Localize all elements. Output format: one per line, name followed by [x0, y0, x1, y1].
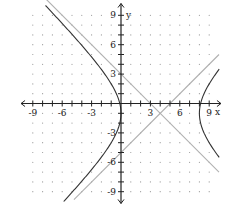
x-axis-label: x	[215, 107, 220, 117]
x-tick-label: -3	[87, 108, 96, 118]
y-tick-label: -6	[107, 157, 116, 167]
axes	[21, 4, 221, 204]
y-tick-label: -3	[107, 128, 116, 138]
x-tick-label: 9	[206, 108, 212, 118]
y-tick-label: -9	[107, 187, 116, 197]
y-tick-label: 3	[110, 69, 116, 79]
y-tick-label: 9	[110, 10, 116, 20]
x-tick-label: -9	[28, 108, 37, 118]
x-tick-label: 3	[148, 108, 154, 118]
hyperbola-graph: -9-6-3369963-3-6-9xy	[0, 0, 231, 213]
x-tick-label: -6	[58, 108, 67, 118]
x-tick-label: 6	[177, 108, 183, 118]
y-tick-label: 6	[110, 40, 116, 50]
asymptote-lines	[21, 0, 219, 200]
y-axis-label: y	[125, 10, 132, 20]
